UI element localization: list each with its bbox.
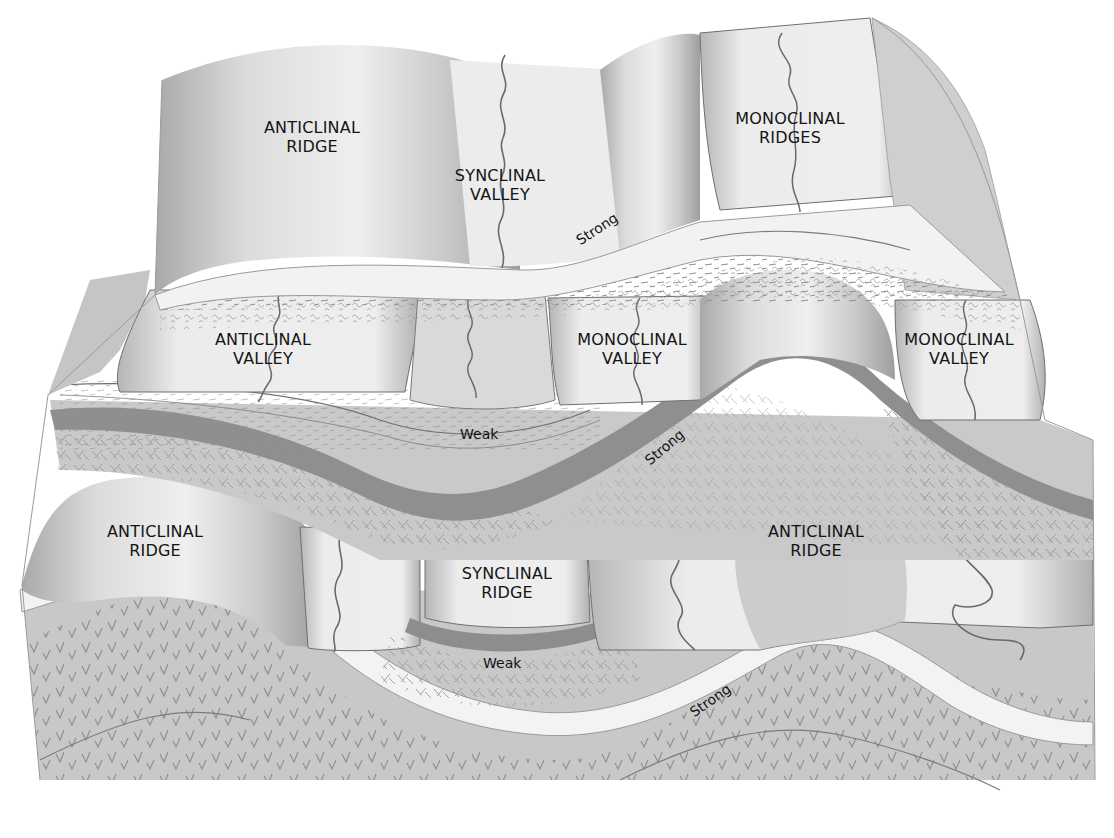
label-line: VALLEY — [904, 349, 1014, 368]
label-middle-monoclinal-valley-2: MONOCLINAL VALLEY — [904, 330, 1014, 368]
label-upper-anticlinal-ridge: ANTICLINAL RIDGE — [264, 118, 360, 156]
label-line: MONOCLINAL — [577, 330, 687, 349]
label-line: VALLEY — [577, 349, 687, 368]
label-line: RIDGE — [462, 583, 552, 602]
label-line: RIDGE — [768, 541, 864, 560]
label-line: VALLEY — [455, 185, 545, 204]
label-lower-anticlinal-ridge-left: ANTICLINAL RIDGE — [107, 522, 203, 560]
diagram-artwork — [0, 0, 1114, 838]
rock-label-weak-middle: Weak — [460, 426, 498, 442]
label-line: RIDGES — [735, 128, 845, 147]
label-line: ANTICLINAL — [264, 118, 360, 137]
label-lower-synclinal-ridge: SYNCLINAL RIDGE — [462, 564, 552, 602]
label-upper-monoclinal-ridges: MONOCLINAL RIDGES — [735, 109, 845, 147]
label-line: MONOCLINAL — [735, 109, 845, 128]
label-line: RIDGE — [107, 541, 203, 560]
label-line: VALLEY — [215, 349, 311, 368]
label-middle-anticlinal-valley: ANTICLINAL VALLEY — [215, 330, 311, 368]
label-middle-monoclinal-valley-1: MONOCLINAL VALLEY — [577, 330, 687, 368]
label-upper-synclinal-valley: SYNCLINAL VALLEY — [455, 166, 545, 204]
label-line: MONOCLINAL — [904, 330, 1014, 349]
upper-tier — [155, 18, 1020, 330]
label-line: ANTICLINAL — [107, 522, 203, 541]
label-line: SYNCLINAL — [455, 166, 545, 185]
label-line: SYNCLINAL — [462, 564, 552, 583]
label-line: RIDGE — [264, 137, 360, 156]
label-line: ANTICLINAL — [768, 522, 864, 541]
label-line: ANTICLINAL — [215, 330, 311, 349]
rock-label-weak-lower: Weak — [483, 655, 521, 671]
label-lower-anticlinal-ridge-right: ANTICLINAL RIDGE — [768, 522, 864, 560]
block-diagram: ANTICLINAL RIDGE SYNCLINAL VALLEY MONOCL… — [0, 0, 1114, 838]
